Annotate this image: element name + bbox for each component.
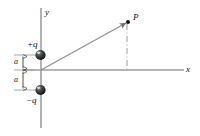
positive-charge-sphere — [35, 50, 45, 60]
electric-dipole-diagram: y x +q −q a a P — [0, 0, 200, 136]
negative-charge-highlight — [37, 87, 40, 89]
x-axis-label: x — [186, 65, 190, 74]
point-p-marker — [126, 20, 130, 24]
diagram-canvas — [0, 0, 200, 136]
negative-charge-label: −q — [26, 96, 37, 105]
position-vector-arrow — [41, 23, 126, 70]
y-axis-label: y — [45, 8, 49, 17]
point-p-label: P — [133, 13, 139, 22]
dimension-label-lower: a — [14, 76, 18, 84]
negative-charge-sphere — [35, 85, 45, 95]
positive-charge-highlight — [37, 52, 40, 54]
dimension-label-upper: a — [14, 58, 18, 66]
positive-charge-label: +q — [27, 40, 38, 49]
